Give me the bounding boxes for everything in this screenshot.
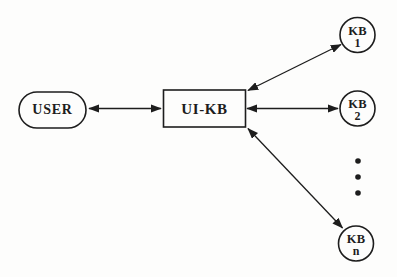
- kb1-node-sublabel: 1: [355, 36, 361, 50]
- ellipsis-dot-2: [355, 174, 361, 180]
- diagram-page: USER UI-KB KB 1 KB 2 KB n: [0, 0, 397, 277]
- edge-uikb-kb1: [248, 45, 341, 91]
- diagram-canvas: USER UI-KB KB 1 KB 2 KB n: [0, 0, 397, 277]
- diagram-edges: [89, 45, 343, 229]
- kbn-node: KB n: [339, 226, 374, 261]
- uikb-node: UI-KB: [164, 90, 246, 127]
- ellipsis-dot-3: [355, 190, 361, 196]
- kbn-node-sublabel: n: [353, 244, 360, 258]
- kb2-node: KB 2: [340, 91, 375, 126]
- edge-uikb-kbn: [248, 129, 343, 229]
- ellipsis-dots: [355, 158, 361, 196]
- user-node: USER: [19, 92, 86, 128]
- kb1-node: KB 1: [340, 18, 375, 53]
- uikb-node-label: UI-KB: [181, 101, 227, 117]
- user-node-label: USER: [32, 102, 73, 117]
- ellipsis-dot-1: [355, 158, 361, 164]
- kb2-node-sublabel: 2: [355, 109, 361, 123]
